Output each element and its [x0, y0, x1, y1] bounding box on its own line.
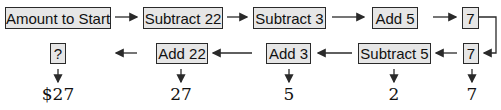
- add-3-box: Add 3: [266, 43, 311, 64]
- result-value-after-add-22: 27: [170, 84, 192, 104]
- subtract-3-box: Subtract 3: [253, 7, 326, 29]
- result-value-end: 7: [467, 84, 478, 104]
- add-5-box: Add 5: [372, 7, 418, 29]
- result-value-after-subtract-5: 2: [389, 84, 400, 104]
- subtract-5-box: Subtract 5: [358, 43, 431, 64]
- add-22-box: Add 22: [156, 43, 208, 64]
- result-value-start: $27: [42, 84, 74, 104]
- amount-to-start-box: Amount to Start: [5, 7, 111, 29]
- subtract-22-box: Subtract 22: [143, 7, 223, 29]
- unknown-start-box: ?: [50, 43, 66, 64]
- result-7-box-top: 7: [462, 7, 479, 29]
- result-value-after-add-3: 5: [284, 84, 295, 104]
- result-7-box-bottom: 7: [463, 43, 479, 64]
